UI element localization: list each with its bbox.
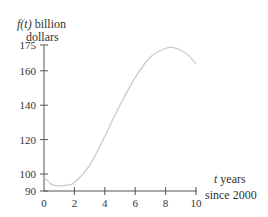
y-tick-label: 120 (20, 134, 37, 146)
y-tick-label: 160 (20, 65, 37, 77)
y-axis-label-line2: dollars (26, 30, 59, 44)
y-tick-label: 140 (20, 99, 37, 111)
x-ticks: 0246810 (41, 187, 202, 209)
x-tick-label: 8 (163, 197, 169, 209)
x-tick-label: 6 (132, 197, 138, 209)
x-tick-label: 10 (191, 197, 203, 209)
data-curve (44, 47, 196, 186)
x-tick-label: 2 (72, 197, 78, 209)
y-tick-label: 100 (20, 168, 37, 180)
y-tick-label: 90 (25, 185, 37, 197)
chart: 90100120140160175 0246810 f(t) billion d… (0, 0, 268, 217)
x-tick-label: 0 (41, 197, 47, 209)
x-tick-label: 4 (102, 197, 108, 209)
x-axis-label: t years (214, 172, 246, 186)
y-axis-label: f(t) billion (17, 17, 66, 31)
x-axis-label-line2: since 2000 (205, 188, 257, 202)
